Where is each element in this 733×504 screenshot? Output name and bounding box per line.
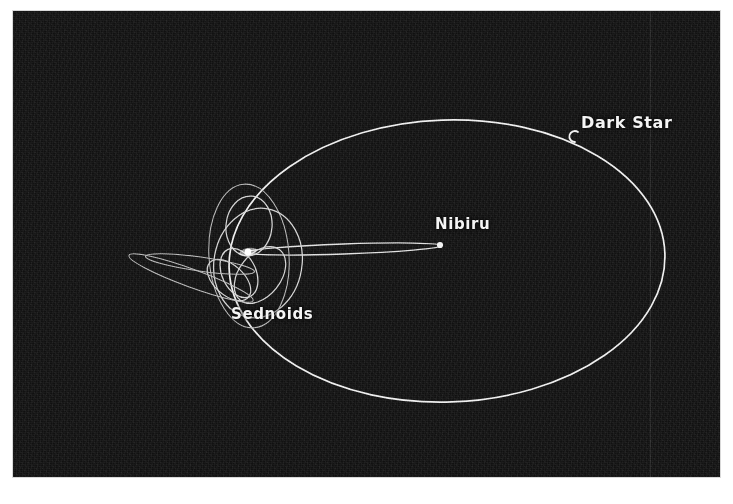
label-sednoids: Sednoids — [231, 305, 313, 323]
label-nibiru: Nibiru — [435, 215, 490, 233]
dark-star-crescent-icon — [569, 131, 578, 142]
label-dark-star: Dark Star — [581, 113, 672, 132]
orbit-diagram — [13, 11, 720, 477]
nibiru-orbit — [246, 241, 442, 258]
scanned-plate — [13, 11, 720, 477]
nibiru-dot-marker — [437, 242, 443, 248]
dark-star-orbit — [224, 112, 670, 409]
figure-page: Dark Star Nibiru Sednoids — [0, 0, 733, 504]
sun-focus-marker — [238, 246, 257, 258]
